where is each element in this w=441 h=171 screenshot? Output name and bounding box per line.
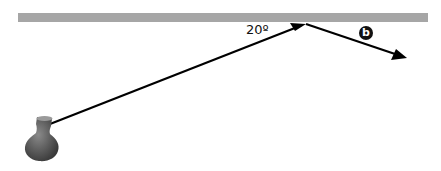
reflecting-surface xyxy=(18,13,428,22)
reflection-diagram xyxy=(0,0,441,171)
label-badge: b xyxy=(359,26,373,40)
angle-label: 20º xyxy=(246,22,269,37)
incident-ray xyxy=(50,23,306,124)
reflected-ray xyxy=(306,24,407,60)
